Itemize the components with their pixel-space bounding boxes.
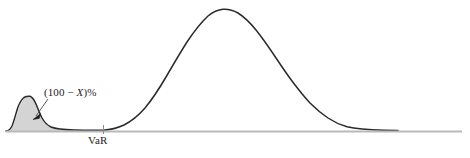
tail-label-prefix: (100 − [44, 86, 77, 98]
tail-shaded-region [8, 96, 103, 131]
tail-probability-label: (100 − X)% [44, 86, 96, 98]
loss-distribution-curve [6, 9, 398, 131]
var-threshold-label: VaR [88, 134, 108, 146]
distribution-plot [0, 0, 470, 158]
var-distribution-figure: (100 − X)% VaR [0, 0, 470, 158]
tail-label-suffix: )% [83, 86, 96, 98]
